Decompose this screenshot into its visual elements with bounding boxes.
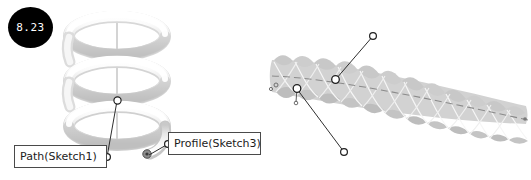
figure-number-text: 8.23 — [16, 22, 45, 33]
sweep-path-endpoint — [523, 117, 527, 121]
helical-sweep-model-drawing — [266, 0, 531, 180]
callout-label: Profile(Sketch3) — [174, 138, 261, 149]
figure-number-badge-823: 8.23 — [8, 7, 53, 48]
spring-connector-2-highlight — [67, 82, 70, 107]
callout-profile-sketch3[interactable]: Profile(Sketch3) — [168, 132, 261, 155]
figure-panel-823: 8.23 Path(Sketch1) Profile(Sketch3) — [0, 0, 266, 180]
spring-connector-1-highlight — [67, 37, 70, 62]
callout-label: Path(Sketch1) — [20, 151, 97, 162]
figure-panel-824: 8.24 Path(Sketch1) Profile(Sketch2) — [266, 0, 531, 180]
figure-pair-image: 8.23 Path(Sketch1) Profile(Sketch3) — [0, 0, 531, 180]
callout-path-sketch1-left[interactable]: Path(Sketch1) — [14, 145, 107, 168]
